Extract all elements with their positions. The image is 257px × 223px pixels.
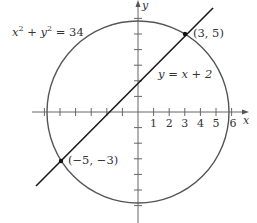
x-tick-label-4: 4 (197, 117, 204, 130)
circle-line-intersection-diagram: x y 1 2 3 4 5 6 (3, 5) (−5, −3) y = x + … (0, 0, 257, 223)
x-axis-label: x (243, 114, 250, 127)
line-equation-text: y = x + 2 (157, 67, 212, 81)
y-axis-label: y (141, 0, 149, 12)
x-tick-label-2: 2 (166, 117, 173, 130)
line-equation-label: y = x + 2 (157, 67, 212, 81)
circle-equation-label: x2 + y2 = 34 (12, 24, 84, 39)
y-axis-arrow-icon (136, 0, 141, 7)
intersection-point-3-5 (183, 32, 187, 36)
circle-eq-plus: + (24, 25, 41, 39)
x-tick-label-5: 5 (213, 117, 220, 130)
point-label-3-5: (3, 5) (193, 26, 224, 40)
point-label-neg5-neg3: (−5, −3) (68, 153, 118, 167)
x-tick-labels: 1 2 3 4 5 6 (150, 117, 236, 130)
x-tick-label-3: 3 (181, 117, 188, 130)
circle-eq-rhs: = 34 (52, 25, 84, 39)
x-tick-label-1: 1 (150, 117, 157, 130)
intersection-point-neg5-neg3 (59, 159, 63, 163)
x-tick-label-6: 6 (230, 117, 237, 130)
